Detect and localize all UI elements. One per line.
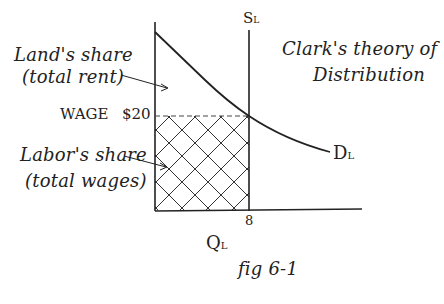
land-share-sublabel: (total rent): [22, 68, 124, 86]
labor-share-region: [155, 116, 249, 210]
figure-title-line2: Distribution: [313, 66, 425, 84]
x-axis-label: QL: [206, 234, 227, 252]
wage-axis-label: WAGE: [60, 107, 108, 122]
demand-label: DL: [333, 144, 354, 162]
land-share-label: Land's share: [14, 46, 133, 64]
labor-share-label: Labor's share: [20, 146, 147, 164]
land-share-arrow: [121, 75, 168, 91]
labor-share-sublabel: (total wages): [25, 172, 147, 190]
x-tick-label: 8: [245, 214, 253, 227]
wage-value-label: $20: [122, 107, 151, 122]
figure-title-line1: Clark's theory of: [282, 40, 437, 58]
supply-label: SL: [243, 11, 259, 26]
figure-caption: fig 6-1: [238, 260, 298, 278]
